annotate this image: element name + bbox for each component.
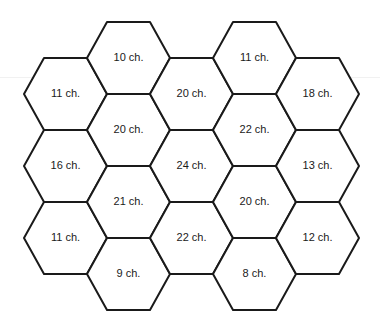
hexagon-grid-diagram: 11 ch.16 ch.11 ch.10 ch.20 ch.21 ch.9 ch… [0,0,380,331]
hex-label: 8 ch. [243,267,267,279]
hex-label: 22 ch. [240,123,270,135]
hex-label: 18 ch. [303,87,333,99]
hex-label: 13 ch. [303,159,333,171]
hex-label: 11 ch. [240,51,269,63]
hex-label: 9 ch. [117,267,141,279]
hex-label: 20 ch. [114,123,144,135]
hex-label: 10 ch. [114,51,144,63]
hex-label: 22 ch. [177,231,207,243]
hex-label: 21 ch. [114,195,144,207]
hex-label: 11 ch. [51,87,80,99]
hex-label: 20 ch. [240,195,270,207]
hex-label: 11 ch. [51,231,80,243]
hex-label: 24 ch. [177,159,207,171]
hex-label: 16 ch. [51,159,81,171]
hex-label: 12 ch. [303,231,333,243]
hex-label: 20 ch. [177,87,207,99]
